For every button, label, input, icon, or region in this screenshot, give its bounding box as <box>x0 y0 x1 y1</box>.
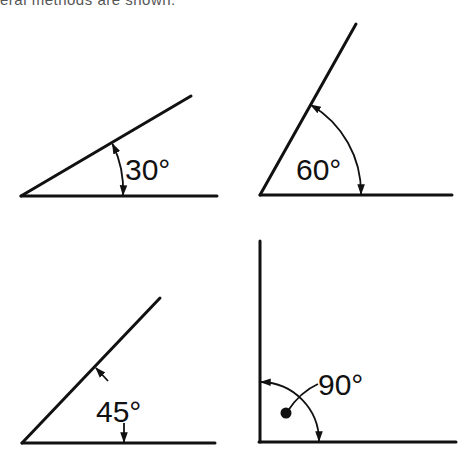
angle-30-dimension-arc <box>113 144 124 195</box>
angle-90-leader-dot <box>281 408 292 419</box>
angle-45-label: 45° <box>96 395 141 428</box>
angle-45-upper-arrow <box>96 368 108 381</box>
angle-60-label: 60° <box>296 153 341 186</box>
angle-90-label: 90° <box>318 368 363 401</box>
angle-30-label: 30° <box>125 153 170 186</box>
angle-30-figure: 30° <box>21 96 217 196</box>
angle-90-leader-line <box>287 384 318 412</box>
angle-90-figure: 90° <box>259 241 456 442</box>
angle-45-figure: 45° <box>22 298 215 443</box>
angle-60-figure: 60° <box>260 24 452 195</box>
angle-dimensioning-diagram: 30° 60° 45° 90° <box>0 0 469 464</box>
